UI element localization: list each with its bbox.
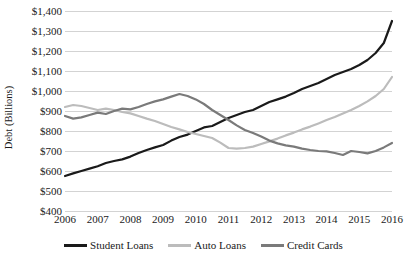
series-line [65, 77, 392, 149]
x-axis-ticks: 2006200720082009201020112012201320142015… [65, 213, 392, 229]
legend-label: Credit Cards [287, 239, 343, 251]
y-axis-tick-label: $800 [16, 126, 62, 137]
y-axis-tick-label: $1,400 [16, 6, 62, 17]
x-axis-tick-label: 2008 [119, 213, 141, 225]
x-axis-tick-label: 2014 [316, 213, 338, 225]
chart-legend: Student LoansAuto LoansCredit Cards [0, 236, 407, 254]
y-axis-tick-label: $1,000 [16, 86, 62, 97]
plot-area [65, 11, 392, 211]
y-axis-tick-label: $1,300 [16, 26, 62, 37]
y-axis-tick-label: $900 [16, 106, 62, 117]
y-axis-tick-label: $1,100 [16, 66, 62, 77]
x-axis-tick-label: 2013 [283, 213, 305, 225]
legend-item[interactable]: Student Loans [64, 239, 153, 251]
series-line [65, 94, 392, 155]
x-axis-tick-label: 2011 [218, 213, 240, 225]
legend-item[interactable]: Auto Loans [168, 239, 246, 251]
gridline [65, 211, 392, 212]
y-axis-tick-label: $700 [16, 146, 62, 157]
line-chart: Debt (Billions) $1,400$1,300$1,200$1,100… [0, 0, 407, 259]
x-axis-tick-label: 2015 [348, 213, 370, 225]
series-lines [65, 11, 392, 211]
y-axis-tick-label: $600 [16, 166, 62, 177]
legend-swatch-icon [261, 244, 284, 247]
legend-swatch-icon [64, 244, 87, 247]
series-line [65, 21, 392, 176]
legend-swatch-icon [168, 244, 191, 247]
legend-label: Student Loans [90, 239, 153, 251]
x-axis-tick-label: 2010 [185, 213, 207, 225]
y-axis-ticks: $1,400$1,300$1,200$1,100$1,000$900$800$7… [14, 0, 62, 230]
y-axis-tick-label: $500 [16, 186, 62, 197]
x-axis-tick-label: 2016 [381, 213, 403, 225]
legend-label: Auto Loans [194, 239, 246, 251]
x-axis-tick-label: 2009 [152, 213, 174, 225]
x-axis-tick-label: 2012 [250, 213, 272, 225]
x-axis-tick-label: 2007 [87, 213, 109, 225]
legend-item[interactable]: Credit Cards [261, 239, 343, 251]
y-axis-title: Debt (Billions) [3, 58, 14, 178]
y-axis-tick-label: $1,200 [16, 46, 62, 57]
x-axis-tick-label: 2006 [54, 213, 76, 225]
